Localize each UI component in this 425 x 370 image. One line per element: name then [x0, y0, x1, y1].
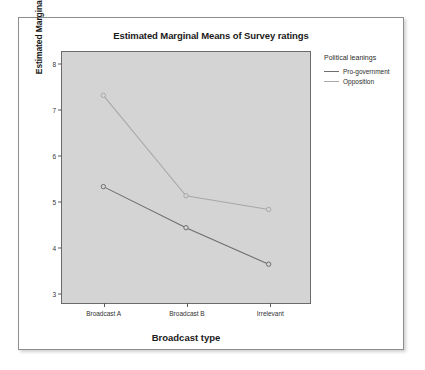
data-point-marker [101, 93, 105, 97]
x-tick-mark [104, 303, 105, 307]
x-tick-mark [187, 303, 188, 307]
data-point-marker [266, 207, 270, 211]
series-line [103, 95, 268, 209]
chart-title: Estimated Marginal Means of Survey ratin… [19, 30, 403, 41]
data-point-marker [101, 184, 105, 188]
data-point-marker [184, 226, 188, 230]
legend-item-label: Opposition [343, 78, 374, 85]
legend-item[interactable]: Pro-government [324, 68, 402, 75]
x-tick-mark [270, 303, 271, 307]
legend-line-swatch [324, 71, 339, 72]
y-tick-label: 7 [52, 106, 62, 113]
y-tick-label: 3 [52, 290, 62, 297]
legend: Political leanings Pro-governmentOpposit… [324, 53, 402, 88]
y-tick-label: 4 [52, 244, 62, 251]
legend-line-swatch [324, 81, 339, 82]
plot-area: Estimated Marginal Means 345678 Broadcas… [61, 51, 311, 304]
chart-card: Estimated Marginal Means of Survey ratin… [18, 17, 404, 350]
x-tick-label: Broadcast B [169, 310, 204, 317]
x-tick-label: Irrelevant [257, 310, 284, 317]
legend-title: Political leanings [324, 53, 402, 62]
legend-item-label: Pro-government [343, 68, 390, 75]
plot-series-svg [62, 52, 310, 303]
legend-items: Pro-governmentOpposition [324, 68, 402, 85]
y-axis-title: Estimated Marginal Means [34, 0, 44, 102]
x-axis-title: Broadcast type [61, 332, 311, 343]
y-tick-label: 8 [52, 60, 62, 67]
data-point-marker [184, 194, 188, 198]
y-tick-label: 6 [52, 152, 62, 159]
x-tick-label: Broadcast A [86, 310, 121, 317]
legend-item[interactable]: Opposition [324, 78, 402, 85]
y-tick-label: 5 [52, 198, 62, 205]
data-point-marker [266, 262, 270, 266]
